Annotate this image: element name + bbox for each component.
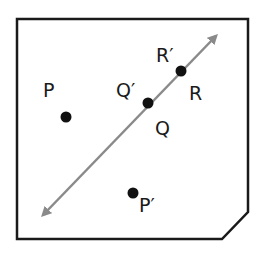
reflection-diagram: P P′ Q′ Q R′ R: [0, 0, 263, 255]
point-p-prime: [128, 188, 139, 199]
label-r-prime: R′: [156, 44, 174, 66]
label-p-prime: P′: [139, 194, 155, 216]
label-r: R: [189, 82, 202, 104]
label-p: P: [43, 79, 54, 101]
label-q-prime: Q′: [116, 79, 135, 101]
label-q: Q: [155, 117, 170, 139]
point-r: [176, 66, 187, 77]
point-p: [61, 112, 72, 123]
point-q: [143, 98, 154, 109]
reflection-line: [44, 37, 215, 214]
